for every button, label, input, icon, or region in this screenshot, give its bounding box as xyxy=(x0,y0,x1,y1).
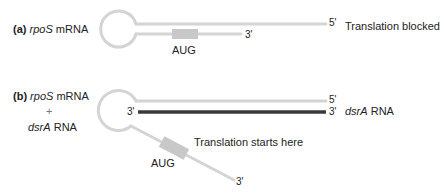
panel-a-status: Translation blocked xyxy=(345,20,440,32)
panel-b-5prime-label: 5' xyxy=(329,94,336,106)
panel-b-status: Translation starts here xyxy=(194,136,303,148)
panel-b-plus: + xyxy=(46,105,52,117)
panel-a-loop xyxy=(101,11,136,47)
panel-a-3prime-label: 3' xyxy=(245,29,252,41)
panel-a-aug-box xyxy=(172,29,198,39)
panel-a-mrna xyxy=(101,11,326,47)
panel-a-5prime-label: 5' xyxy=(329,17,336,29)
panel-b-aug-label: AUG xyxy=(151,157,175,169)
panel-a-title: (a) rpoS mRNA xyxy=(13,23,88,35)
panel-b-dsrA-label: dsrA RNA xyxy=(345,105,394,117)
panel-a-aug-label: AUG xyxy=(172,44,196,56)
panel-b-dsrA-3prime-left: 3' xyxy=(127,106,134,118)
panel-b-3prime-bottom: 3' xyxy=(236,176,243,188)
panel-b-3prime-top: 3' xyxy=(329,106,336,118)
panel-b-title: (b) rpoS mRNA xyxy=(13,90,89,102)
panel-b-srna-title: dsrA RNA xyxy=(28,121,77,133)
